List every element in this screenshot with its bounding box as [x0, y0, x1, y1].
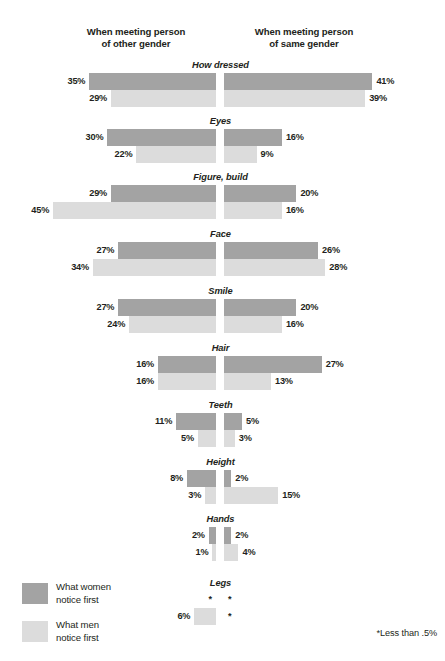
- value-label-men-left: 16%: [136, 373, 154, 390]
- bar-women-right: [224, 73, 372, 90]
- value-label-women-left: 30%: [86, 129, 104, 146]
- bar-men-left: [194, 608, 216, 625]
- bar-men-left: [158, 373, 216, 390]
- value-label-women-right: 5%: [246, 413, 259, 430]
- value-label-men-left: 3%: [188, 487, 201, 504]
- row-category-text: Legs: [210, 578, 231, 588]
- value-label-women-right: 20%: [300, 185, 318, 202]
- bar-men-right: [224, 430, 235, 447]
- row-category-text: Face: [210, 229, 231, 239]
- bar-women-right: [224, 527, 231, 544]
- value-label-women-left: 11%: [155, 413, 172, 430]
- row-category-text: Teeth: [209, 400, 233, 410]
- value-label-men-left: 45%: [31, 202, 49, 219]
- value-label-women-left: 35%: [68, 73, 86, 90]
- value-label-men-left: 22%: [115, 146, 133, 163]
- row-category-label: Eyes: [0, 116, 445, 126]
- legend-swatch-men: [22, 621, 48, 642]
- value-label-women-left: *: [209, 591, 212, 608]
- footnote: *Less than .5%: [377, 628, 437, 638]
- column-header-same-gender: When meeting personof same gender: [224, 26, 384, 50]
- row-category-label: Face: [0, 229, 445, 239]
- bar-women-left: [118, 299, 216, 316]
- value-label-men-right: 3%: [239, 430, 252, 447]
- value-label-women-left: 27%: [96, 242, 114, 259]
- row-category-label: Hair: [0, 343, 445, 353]
- legend-label-women: What womennotice first: [56, 581, 166, 606]
- bar-women-right: [224, 185, 296, 202]
- bar-women-left: [118, 242, 216, 259]
- bar-women-left: [209, 527, 216, 544]
- row-bars: 16%27%16%13%: [0, 356, 445, 392]
- bar-men-left: [212, 544, 216, 561]
- value-label-women-right: 20%: [300, 299, 318, 316]
- column-header-other-gender: When meeting personof other gender: [56, 26, 216, 50]
- row-bars: 27%26%34%28%: [0, 242, 445, 278]
- bar-men-right: [224, 202, 282, 219]
- bar-women-right: [224, 129, 282, 146]
- value-label-men-right: *: [228, 608, 231, 625]
- legend-label-men: What mennotice first: [56, 619, 166, 644]
- value-label-women-right: 27%: [326, 356, 344, 373]
- value-label-men-right: 4%: [242, 544, 255, 561]
- bar-men-right: [224, 373, 271, 390]
- value-label-women-left: 27%: [96, 299, 114, 316]
- bar-men-right: [224, 146, 257, 163]
- value-label-men-left: 24%: [107, 316, 125, 333]
- value-label-men-right: 16%: [286, 316, 304, 333]
- row-category-text: Eyes: [210, 116, 231, 126]
- row-category-text: Smile: [208, 286, 232, 296]
- value-label-women-right: 16%: [286, 129, 304, 146]
- row-bars: 8%2%3%15%: [0, 470, 445, 506]
- bar-men-left: [93, 259, 216, 276]
- row-category-text: Height: [206, 457, 234, 467]
- bar-men-right: [224, 487, 278, 504]
- bar-men-left: [129, 316, 216, 333]
- value-label-women-right: 26%: [322, 242, 340, 259]
- bar-women-right: [224, 413, 242, 430]
- bar-women-left: [111, 185, 216, 202]
- value-label-women-left: 8%: [170, 470, 183, 487]
- row-bars: 11%5%5%3%: [0, 413, 445, 449]
- value-label-women-right: 41%: [376, 73, 394, 90]
- bar-men-right: [224, 316, 282, 333]
- value-label-women-right: 2%: [235, 527, 248, 544]
- bar-women-left: [187, 470, 216, 487]
- value-label-men-left: 6%: [177, 608, 190, 625]
- bar-men-left: [136, 146, 216, 163]
- row-category-text: Figure, build: [193, 172, 247, 182]
- value-label-men-right: 9%: [261, 146, 274, 163]
- row-category-label: Hands: [0, 514, 445, 524]
- row-category-label: Smile: [0, 286, 445, 296]
- value-label-men-right: 15%: [282, 487, 300, 504]
- bar-women-right: [224, 470, 231, 487]
- bar-men-left: [205, 487, 216, 504]
- legend-swatch-women: [22, 583, 48, 604]
- bar-women-left: [158, 356, 216, 373]
- row-bars: 29%20%45%16%: [0, 185, 445, 221]
- bar-women-left: [89, 73, 216, 90]
- value-label-women-left: 29%: [89, 185, 107, 202]
- bar-men-right: [224, 544, 238, 561]
- row-category-label: Figure, build: [0, 172, 445, 182]
- bar-women-left: [176, 413, 216, 430]
- row-bars: 2%2%1%4%: [0, 527, 445, 563]
- bar-women-right: [224, 356, 322, 373]
- value-label-men-left: 1%: [196, 544, 209, 561]
- value-label-men-right: 16%: [286, 202, 304, 219]
- row-bars: 35%41%29%39%: [0, 73, 445, 109]
- bar-women-right: [224, 299, 296, 316]
- value-label-men-left: 5%: [181, 430, 194, 447]
- bar-men-right: [224, 259, 325, 276]
- value-label-women-left: 2%: [192, 527, 205, 544]
- bar-men-left: [53, 202, 216, 219]
- value-label-men-right: 39%: [369, 90, 387, 107]
- value-label-women-right: 2%: [235, 470, 248, 487]
- bar-men-right: [224, 90, 365, 107]
- bar-men-left: [198, 430, 216, 447]
- row-category-text: Hands: [207, 514, 235, 524]
- value-label-men-left: 34%: [71, 259, 89, 276]
- row-category-text: How dressed: [192, 60, 249, 70]
- bar-women-left: [107, 129, 216, 146]
- value-label-men-right: 28%: [329, 259, 347, 276]
